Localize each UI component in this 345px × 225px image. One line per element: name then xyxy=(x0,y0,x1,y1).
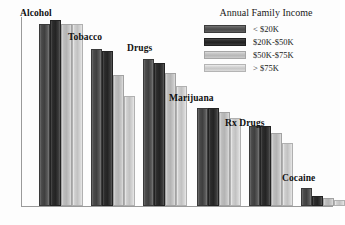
legend-item-2: $50K-$75K xyxy=(196,48,336,61)
bar xyxy=(271,133,282,206)
bar xyxy=(312,196,323,206)
legend-swatch-20k-50k xyxy=(204,38,246,46)
legend-item-3: > $75K xyxy=(196,61,336,74)
bar xyxy=(124,96,135,206)
bar xyxy=(197,108,208,206)
bar xyxy=(113,75,124,206)
bar xyxy=(301,188,312,206)
bar xyxy=(334,200,345,206)
legend-swatch-under-20k xyxy=(204,25,246,33)
bar xyxy=(91,49,102,206)
x-axis-line xyxy=(21,206,333,207)
legend-swatch-over-75k xyxy=(204,64,246,72)
legend-label-20k-50k: $20K-$50K xyxy=(253,37,294,47)
category-label: Rx Drugs xyxy=(225,118,265,128)
legend-label-over-75k: > $75K xyxy=(253,63,279,73)
bar xyxy=(260,126,271,206)
bar xyxy=(154,63,165,206)
category-label: Drugs xyxy=(127,43,152,53)
bar xyxy=(72,24,83,206)
legend-label-50k-75k: $50K-$75K xyxy=(253,50,294,60)
category-label: Tobacco xyxy=(68,32,102,42)
bar xyxy=(39,24,50,206)
legend: Annual Family Income < $20K $20K-$50K $5… xyxy=(196,7,336,74)
bar-group-bars xyxy=(143,10,187,206)
category-label: Alcohol xyxy=(20,8,52,18)
bar xyxy=(61,24,72,206)
bar xyxy=(249,126,260,206)
bar xyxy=(208,108,219,206)
bar xyxy=(230,118,241,206)
bar xyxy=(323,198,334,206)
legend-swatch-50k-75k xyxy=(204,51,246,59)
category-label: Cocaine xyxy=(282,173,315,183)
category-label: Marijuana xyxy=(169,93,214,103)
bar xyxy=(50,20,61,206)
legend-item-0: < $20K xyxy=(196,22,336,35)
bar xyxy=(143,59,154,206)
bar xyxy=(176,86,187,206)
legend-item-1: $20K-$50K xyxy=(196,35,336,48)
legend-title: Annual Family Income xyxy=(196,7,336,18)
bar xyxy=(102,51,113,206)
legend-label-under-20k: < $20K xyxy=(253,24,279,34)
